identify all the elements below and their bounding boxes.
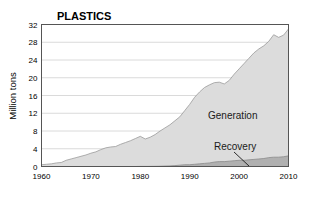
chart-canvas: 048121620242832196019701980199020002010 …	[0, 0, 309, 199]
x-tick-label-2010: 2010	[280, 172, 298, 181]
x-tick-label-1980: 1980	[131, 172, 149, 181]
y-tick-label-32: 32	[29, 21, 38, 30]
plastics-area-chart: 048121620242832196019701980199020002010 …	[0, 0, 309, 199]
y-tick-label-20: 20	[29, 74, 38, 83]
y-tick-label-12: 12	[29, 109, 38, 118]
y-tick-label-0: 0	[33, 163, 38, 172]
chart-title: PLASTICS	[57, 10, 111, 22]
x-tick-label-1990: 1990	[181, 172, 199, 181]
y-tick-label-8: 8	[33, 127, 38, 136]
y-axis-title: Million tons	[7, 72, 18, 120]
generation-series-label: Generation	[208, 110, 257, 121]
y-tick-label-16: 16	[29, 92, 38, 101]
y-tick-label-4: 4	[33, 145, 38, 154]
x-tick-label-2000: 2000	[230, 172, 248, 181]
x-tick-label-1960: 1960	[33, 172, 51, 181]
y-tick-label-24: 24	[29, 56, 38, 65]
y-tick-label-28: 28	[29, 38, 38, 47]
x-tick-label-1970: 1970	[82, 172, 100, 181]
recovery-series-label: Recovery	[214, 141, 256, 152]
